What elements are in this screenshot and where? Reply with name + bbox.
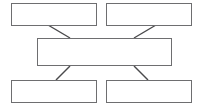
connector-line-center-to-bottom-left xyxy=(56,66,70,80)
node-box-bottom-left[interactable] xyxy=(11,80,97,103)
node-box-bottom-right[interactable] xyxy=(106,80,192,103)
connector-line-top-right-to-center xyxy=(134,25,156,38)
node-box-center[interactable] xyxy=(37,38,172,66)
node-box-top-left[interactable] xyxy=(11,3,97,26)
node-box-top-right[interactable] xyxy=(106,3,192,26)
connector-line-center-to-bottom-right xyxy=(134,66,148,80)
connector-line-top-left-to-center xyxy=(48,25,70,38)
diagram-canvas xyxy=(0,0,204,107)
